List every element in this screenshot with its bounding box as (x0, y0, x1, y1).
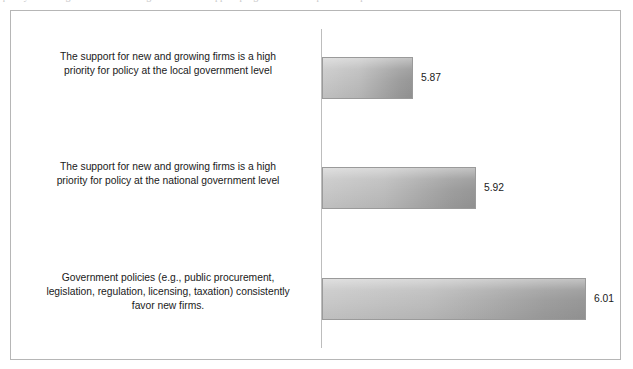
bar (322, 278, 586, 320)
bar-row: The support for new and growing firms is… (11, 19, 622, 119)
category-label-line: priority for policy at the local governm… (23, 64, 313, 78)
bar-row: Government policies (e.g., public procur… (11, 238, 622, 338)
plot-area: The support for new and growing firms is… (11, 11, 622, 361)
bar (322, 57, 413, 99)
chart-screenshot: quality of the legal framework and gover… (0, 0, 633, 369)
category-label: The support for new and growing firms is… (23, 160, 313, 188)
category-label-line: Government policies (e.g., public procur… (23, 271, 313, 285)
bar-value-label: 5.87 (421, 72, 441, 84)
category-label-line: The support for new and growing firms is… (23, 160, 313, 174)
category-label-line: The support for new and growing firms is… (23, 50, 313, 64)
bar (322, 167, 476, 209)
cut-off-text-above-figure: quality of the legal framework and gover… (0, 0, 633, 3)
bar-row: The support for new and growing firms is… (11, 129, 622, 229)
category-label-line: priority for policy at the national gove… (23, 174, 313, 188)
category-label: Government policies (e.g., public procur… (23, 271, 313, 314)
bar-value-label: 6.01 (594, 293, 614, 305)
chart-frame: The support for new and growing firms is… (10, 10, 621, 360)
bar-value-label: 5.92 (484, 182, 504, 194)
category-label: The support for new and growing firms is… (23, 50, 313, 78)
category-label-line: legislation, regulation, licensing, taxa… (23, 285, 313, 299)
category-label-line: favor new firms. (23, 299, 313, 313)
